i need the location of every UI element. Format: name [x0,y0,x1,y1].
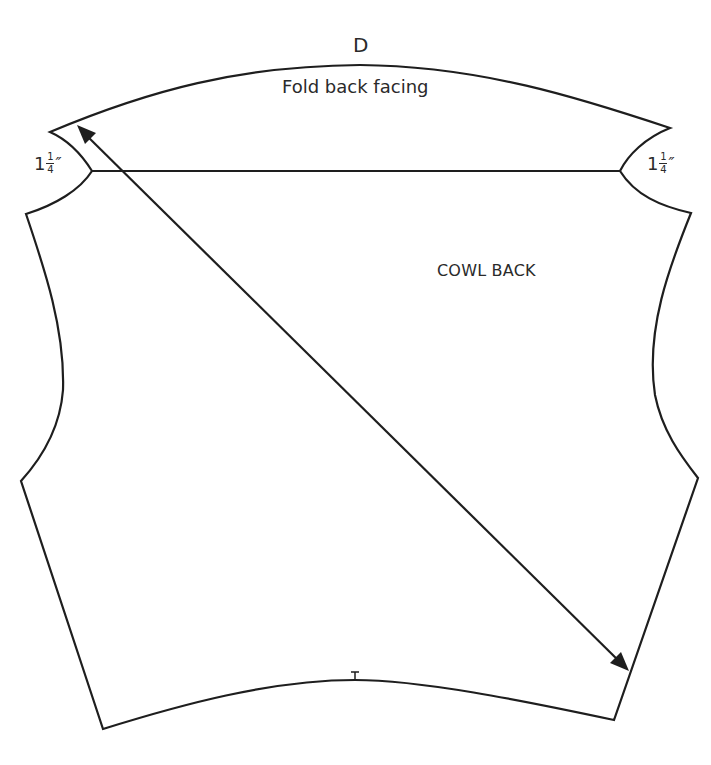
fraction-denominator: 4 [660,165,666,175]
measurement-left: 1 1 4 ″ [34,152,61,175]
measurement-fraction: 1 4 [659,152,667,175]
measurement-unit: ″ [55,154,61,173]
grainline-arrow-icon [77,125,629,671]
pattern-outline [21,65,698,729]
fraction-denominator: 4 [47,165,53,175]
measurement-whole: 1 [34,153,45,174]
measurement-right: 1 1 4 ″ [647,152,674,175]
fraction-numerator: 1 [47,152,53,162]
facing-label: Fold back facing [282,76,428,97]
pattern-drawing [0,0,711,765]
measurement-unit: ″ [668,154,674,173]
notch-icon [351,672,359,680]
measurement-fraction: 1 4 [46,152,54,175]
piece-letter: D [353,33,368,57]
fraction-numerator: 1 [660,152,666,162]
piece-name: COWL BACK [437,261,536,280]
pattern-canvas: D Fold back facing COWL BACK 1 1 4 ″ 1 1… [0,0,711,765]
measurement-whole: 1 [647,153,658,174]
